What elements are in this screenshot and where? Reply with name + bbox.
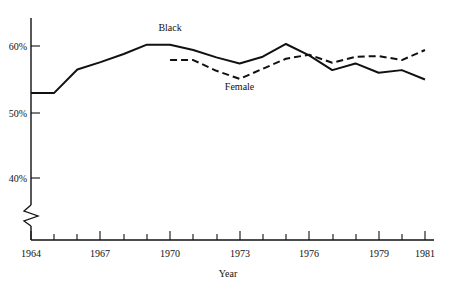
- axis-break-icon: [24, 205, 38, 226]
- chart-container: 60% 50% 40% 1964 196: [0, 0, 450, 285]
- x-tick-label-1976: 1976: [299, 248, 319, 259]
- series-label-female: Female: [225, 81, 255, 92]
- x-tick-label-1964: 1964: [21, 248, 41, 259]
- line-chart: 60% 50% 40% 1964 196: [0, 0, 450, 285]
- x-tick-label-1981: 1981: [415, 248, 435, 259]
- x-tick-label-1973: 1973: [230, 248, 250, 259]
- x-tick-label-1970: 1970: [160, 248, 180, 259]
- x-axis-major-ticks: [31, 231, 425, 240]
- x-axis-title: Year: [219, 268, 238, 279]
- series-label-black: Black: [158, 22, 181, 33]
- x-tick-label-1979: 1979: [369, 248, 389, 259]
- y-tick-label-60: 60%: [9, 41, 27, 52]
- y-tick-label-50: 50%: [9, 108, 27, 119]
- y-axis-ticks: [31, 46, 40, 178]
- x-axis-minor-ticks: [54, 234, 402, 240]
- y-tick-label-40: 40%: [9, 173, 27, 184]
- x-tick-label-1967: 1967: [90, 248, 110, 259]
